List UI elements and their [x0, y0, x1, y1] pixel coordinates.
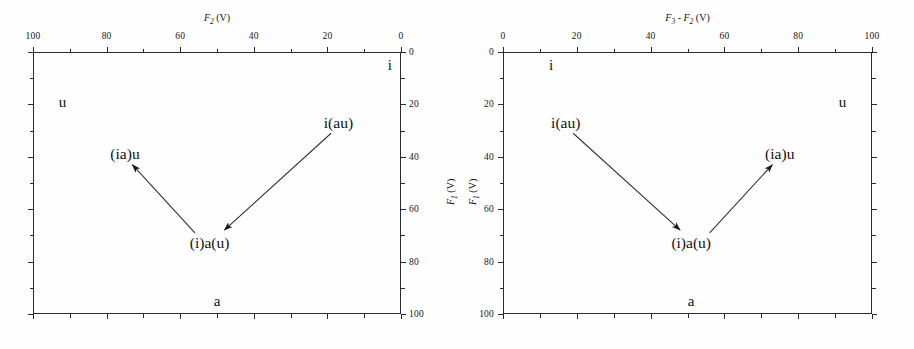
- x-tick-top: [107, 47, 108, 52]
- x-axis-title-left: F2 (V): [204, 12, 230, 26]
- panel-left: F2 (V) 100806040200020406080100 iua i(au…: [0, 0, 457, 349]
- x-tick-label: 60: [719, 31, 729, 41]
- node-label: (i)a(u): [190, 234, 230, 252]
- corner-label-u: u: [59, 93, 67, 110]
- x-tick-bottom: [835, 314, 836, 318]
- y-tick-right: [401, 235, 405, 236]
- y-tick-right: [872, 104, 877, 105]
- y-tick-label: 40: [484, 152, 494, 162]
- x-axis-title-right: F3 - F2 (V): [665, 12, 709, 26]
- x-tick-bottom: [798, 314, 799, 319]
- y-tick-left: [28, 52, 33, 53]
- y-tick-label: 0: [489, 47, 494, 57]
- x-tick-bottom: [724, 314, 725, 319]
- y-tick-label: 80: [409, 257, 419, 267]
- x-tick-top: [143, 49, 144, 53]
- x-tick-top: [651, 47, 652, 52]
- y-tick-label: 100: [409, 309, 424, 319]
- y-tick-left: [500, 183, 504, 184]
- x-tick-top: [254, 47, 255, 52]
- x-tick-bottom: [254, 314, 255, 319]
- x-tick-bottom: [364, 314, 365, 318]
- x-tick-top: [614, 49, 615, 53]
- y-tick-left: [498, 157, 503, 158]
- x-tick-bottom: [614, 314, 615, 318]
- y-tick-left: [28, 104, 33, 105]
- y-tick-label: 60: [484, 204, 494, 214]
- y-tick-left: [500, 235, 504, 236]
- x-tick-bottom: [107, 314, 108, 319]
- node-label: (ia)u: [110, 145, 139, 163]
- x-tick-bottom: [577, 314, 578, 319]
- node-label: i(au): [324, 114, 353, 132]
- y-tick-left: [30, 288, 34, 289]
- y-tick-right: [872, 157, 877, 158]
- x-tick-label: 60: [175, 31, 185, 41]
- y-tick-right: [401, 183, 405, 184]
- corner-label-i: i: [388, 57, 392, 74]
- y-axis-title-right: F1 (V): [467, 179, 481, 205]
- y-tick-right: [401, 104, 406, 105]
- y-tick-label: 80: [484, 257, 494, 267]
- y-tick-left: [28, 262, 33, 263]
- x-tick-label: 80: [793, 31, 803, 41]
- panel-right: F3 - F2 (V) 020406080100020406080100 iua…: [457, 0, 914, 349]
- y-tick-label: 100: [479, 309, 494, 319]
- corner-label-u: u: [839, 93, 847, 110]
- figure-root: F2 (V) 100806040200020406080100 iua i(au…: [0, 0, 914, 349]
- x-tick-bottom: [33, 314, 34, 319]
- y-tick-left: [498, 262, 503, 263]
- y-tick-right: [872, 288, 876, 289]
- y-tick-right: [872, 52, 877, 53]
- x-tick-label: 100: [26, 31, 41, 41]
- y-tick-right: [401, 262, 406, 263]
- x-tick-top: [327, 47, 328, 52]
- x-tick-top: [503, 47, 504, 52]
- node-label: (i)a(u): [671, 234, 711, 252]
- y-tick-label: 0: [409, 47, 414, 57]
- y-tick-right: [401, 78, 405, 79]
- y-tick-right: [401, 209, 406, 210]
- y-tick-left: [500, 131, 504, 132]
- x-tick-bottom: [70, 314, 71, 318]
- y-tick-left: [30, 235, 34, 236]
- y-tick-right: [401, 314, 406, 315]
- x-tick-label: 40: [646, 31, 656, 41]
- y-tick-right: [401, 288, 405, 289]
- node-label: (ia)u: [765, 145, 794, 163]
- y-tick-right: [872, 235, 876, 236]
- y-tick-right: [872, 78, 876, 79]
- x-tick-top: [33, 47, 34, 52]
- y-tick-right: [872, 209, 877, 210]
- x-tick-bottom: [503, 314, 504, 319]
- x-tick-label: 40: [249, 31, 259, 41]
- plot-box-left: [33, 52, 401, 314]
- x-tick-bottom: [180, 314, 181, 319]
- x-tick-label: 20: [322, 31, 332, 41]
- x-tick-label: 0: [399, 31, 404, 41]
- corner-label-a: a: [688, 292, 695, 309]
- x-tick-bottom: [291, 314, 292, 318]
- x-tick-top: [688, 49, 689, 53]
- y-tick-label: 20: [409, 99, 419, 109]
- y-tick-right: [872, 183, 876, 184]
- y-tick-left: [30, 131, 34, 132]
- y-tick-right: [872, 314, 877, 315]
- x-tick-bottom: [143, 314, 144, 318]
- x-tick-top: [180, 47, 181, 52]
- x-tick-top: [724, 47, 725, 52]
- x-tick-top: [217, 49, 218, 53]
- y-tick-left: [498, 314, 503, 315]
- y-tick-label: 20: [484, 99, 494, 109]
- x-tick-top: [577, 47, 578, 52]
- y-tick-label: 60: [409, 204, 419, 214]
- y-tick-left: [30, 78, 34, 79]
- x-tick-label: 20: [572, 31, 582, 41]
- x-tick-bottom: [540, 314, 541, 318]
- y-tick-right: [401, 52, 406, 53]
- y-tick-label: 40: [409, 152, 419, 162]
- x-tick-bottom: [651, 314, 652, 319]
- x-tick-top: [798, 47, 799, 52]
- x-tick-label: 0: [501, 31, 506, 41]
- x-tick-top: [364, 49, 365, 53]
